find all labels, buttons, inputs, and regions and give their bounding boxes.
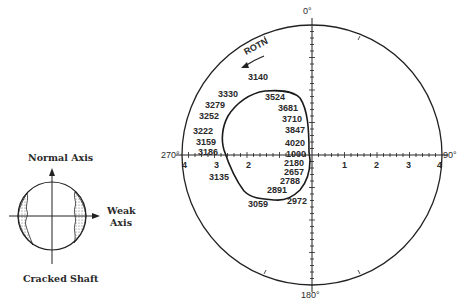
- speed-label: 3135: [209, 172, 229, 182]
- speed-label: 3681: [278, 103, 298, 113]
- speed-label: 4020: [285, 138, 305, 148]
- crack-region-right: [74, 192, 86, 243]
- speed-label: 3159: [196, 137, 216, 147]
- normal-axis-label: Normal Axis: [28, 152, 93, 163]
- radial-tick-left-4: 4: [182, 160, 187, 170]
- crack-region-left: [18, 193, 33, 245]
- normal-axis-arrowhead-icon: [49, 168, 55, 176]
- speed-label: 3252: [199, 111, 219, 121]
- rotation-arrow-icon: [241, 62, 249, 68]
- weak-axis-label-line1: Weak: [106, 205, 136, 216]
- speed-label: 2891: [267, 185, 287, 195]
- speed-label: 3330: [218, 89, 238, 99]
- angle-label-0: 0°: [303, 6, 312, 16]
- weak-axis-label-line2: Axis: [109, 217, 132, 228]
- speed-label: 3222: [193, 126, 213, 136]
- speed-label: 3524: [265, 92, 285, 102]
- rotation-label: ROTN: [242, 36, 269, 57]
- speed-label: 3847: [285, 125, 305, 135]
- weak-axis-arrowhead-icon: [92, 213, 100, 219]
- radial-tick-right-2: 2: [374, 160, 379, 170]
- radial-tick-right-3: 3: [406, 160, 411, 170]
- rotation-arrow-shaft: [245, 56, 264, 66]
- polar-plot: 0° 90° 180° 270° 4 3 2 1 2 3 4 ROTN 3140…: [161, 6, 457, 300]
- angle-label-270: 270°: [161, 150, 180, 160]
- speed-label: 3140: [248, 72, 268, 82]
- speed-label: 3710: [282, 114, 302, 124]
- cracked-shaft-caption: Cracked Shaft: [23, 273, 99, 284]
- speed-label: 2972: [287, 196, 307, 206]
- radial-tick-left-2: 2: [246, 160, 251, 170]
- radial-tick-right-1: 1: [342, 160, 347, 170]
- speed-label: 3186: [198, 147, 218, 157]
- angle-label-180: 180°: [301, 290, 320, 300]
- rotation-indicator: ROTN: [241, 36, 269, 68]
- radial-tick-left-3: 3: [214, 160, 219, 170]
- angle-label-90: 90°: [443, 150, 457, 160]
- radial-tick-right-4: 4: [437, 160, 442, 170]
- figure-canvas: Normal Axis Weak Axis Cracked Shaft: [0, 0, 466, 305]
- cracked-shaft-diagram: Normal Axis Weak Axis Cracked Shaft: [9, 152, 136, 284]
- speed-label: 3279: [205, 100, 225, 110]
- speed-label: 3059: [248, 199, 268, 209]
